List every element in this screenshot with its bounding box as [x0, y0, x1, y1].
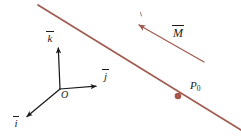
point-p0-label: P0 [190, 80, 200, 93]
k-glyph: k [46, 33, 54, 44]
tick-mark [141, 13, 142, 17]
i-vector-label: i [13, 116, 19, 129]
k-axis-arrow [58, 48, 60, 89]
k-vector-label: k [46, 31, 54, 44]
origin-label: O [61, 90, 68, 100]
p-subscript: 0 [197, 84, 201, 93]
figure-canvas [0, 0, 241, 137]
i-axis-arrow [27, 89, 60, 117]
geometry-figure: k j i O M P0 [0, 0, 241, 137]
p-glyph: P [190, 79, 197, 91]
point-p0-marker [175, 93, 182, 100]
i-glyph: i [13, 118, 19, 129]
j-vector-label: j [102, 69, 109, 82]
m-glyph: M [172, 27, 184, 39]
main-line [38, 5, 241, 130]
origin-glyph: O [61, 90, 68, 100]
j-glyph: j [102, 71, 109, 82]
direction-vector-label: M [172, 25, 184, 39]
